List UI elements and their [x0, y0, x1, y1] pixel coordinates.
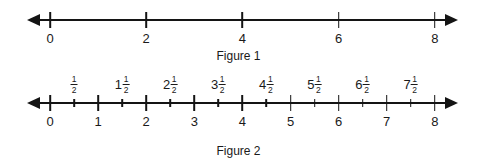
- fraction-numerator: 1: [219, 75, 226, 84]
- fraction-whole-part: 4: [259, 78, 267, 91]
- major-tick: [434, 12, 436, 28]
- fraction-stack: 12: [267, 75, 274, 95]
- fraction-stack: 12: [363, 75, 370, 95]
- figure-2: 01234567812112212312412512612712 Figure …: [0, 75, 477, 163]
- axis-tick-label: 4: [239, 115, 246, 128]
- fraction-stack: 12: [315, 75, 322, 95]
- left-arrow-icon: [27, 97, 40, 109]
- number-line-figure-2: 01234567812112212312412512612712: [0, 75, 477, 141]
- minor-tick: [73, 99, 75, 107]
- mixed-fraction-label: 512: [307, 75, 322, 95]
- minor-tick: [218, 99, 220, 107]
- fraction-denominator: 2: [123, 86, 130, 95]
- fraction-numerator: 1: [267, 75, 274, 84]
- fraction-numerator: 1: [411, 75, 418, 84]
- axis-tick-label: 1: [94, 115, 101, 128]
- fraction-denominator: 2: [315, 86, 322, 95]
- minor-tick: [266, 99, 268, 107]
- fraction-whole-part: 6: [355, 78, 363, 91]
- fraction-numerator: 1: [123, 75, 130, 84]
- fraction-numerator: 1: [363, 75, 370, 84]
- left-arrow-icon: [27, 14, 40, 26]
- fraction-denominator: 2: [171, 86, 178, 95]
- axis-tick-label: 8: [431, 32, 438, 45]
- fraction-numerator: 1: [315, 75, 322, 84]
- major-tick: [145, 95, 147, 111]
- figure-caption: Figure 1: [0, 50, 477, 62]
- mixed-fraction-label: 312: [211, 75, 226, 95]
- major-tick: [242, 12, 244, 28]
- fraction-stack: 12: [411, 75, 418, 95]
- minor-tick: [169, 99, 171, 107]
- mixed-fraction-label: 712: [403, 75, 418, 95]
- major-tick: [386, 95, 388, 111]
- figure-1: 02468 Figure 1: [0, 0, 477, 68]
- fraction-whole-part: 7: [403, 78, 411, 91]
- fraction-denominator: 2: [411, 86, 418, 95]
- major-tick: [434, 95, 436, 111]
- axis-tick-label: 5: [287, 115, 294, 128]
- minor-tick: [314, 99, 316, 107]
- fraction-whole-part: 5: [307, 78, 315, 91]
- major-tick: [193, 95, 195, 111]
- major-tick: [242, 95, 244, 111]
- fraction-denominator: 2: [363, 86, 370, 95]
- major-tick: [338, 95, 340, 111]
- axis-tick-label: 0: [46, 32, 53, 45]
- minor-tick: [121, 99, 123, 107]
- major-tick: [49, 95, 51, 111]
- right-arrow-icon: [445, 97, 458, 109]
- axis-tick-label: 6: [335, 32, 342, 45]
- mixed-fraction-label: 612: [355, 75, 370, 95]
- major-tick: [338, 12, 340, 28]
- minor-tick: [410, 99, 412, 107]
- mixed-fraction-label: 112: [115, 75, 130, 95]
- axis-tick-label: 2: [143, 32, 150, 45]
- fraction-stack: 12: [219, 75, 226, 95]
- fraction-stack: 12: [171, 75, 178, 95]
- right-arrow-icon: [445, 14, 458, 26]
- fraction-stack: 12: [123, 75, 130, 95]
- axis-tick-label: 8: [431, 115, 438, 128]
- fraction-stack: 12: [71, 75, 78, 95]
- mixed-fraction-label: 212: [163, 75, 178, 95]
- fraction-numerator: 1: [171, 75, 178, 84]
- fraction-denominator: 2: [219, 86, 226, 95]
- axis-tick-label: 0: [46, 115, 53, 128]
- fraction-denominator: 2: [267, 86, 274, 95]
- minor-tick: [362, 99, 364, 107]
- fraction-denominator: 2: [71, 86, 78, 95]
- fraction-numerator: 1: [71, 75, 78, 84]
- major-tick: [290, 95, 292, 111]
- axis-tick-label: 4: [239, 32, 246, 45]
- fraction-whole-part: 2: [163, 78, 171, 91]
- figure-caption: Figure 2: [0, 145, 477, 157]
- mixed-fraction-label: 12: [71, 75, 78, 95]
- axis-tick-label: 6: [335, 115, 342, 128]
- fraction-whole-part: 3: [211, 78, 219, 91]
- major-tick: [97, 95, 99, 111]
- axis-tick-label: 7: [383, 115, 390, 128]
- major-tick: [145, 12, 147, 28]
- fraction-whole-part: 1: [115, 78, 123, 91]
- mixed-fraction-label: 412: [259, 75, 274, 95]
- number-line-figure-1: 02468: [0, 0, 477, 46]
- axis-tick-label: 2: [143, 115, 150, 128]
- major-tick: [49, 12, 51, 28]
- axis-tick-label: 3: [191, 115, 198, 128]
